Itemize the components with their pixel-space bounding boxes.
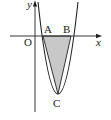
y-axis-arrow-icon xyxy=(33,1,37,7)
point-a-label: A xyxy=(44,23,52,35)
point-c-label: C xyxy=(53,97,60,109)
y-axis-label: y xyxy=(26,0,32,10)
x-axis-label: x xyxy=(95,36,101,48)
origin-label: O xyxy=(24,36,32,48)
point-b-label: B xyxy=(63,23,70,35)
diagram-canvas: y x O A B C xyxy=(0,0,111,120)
